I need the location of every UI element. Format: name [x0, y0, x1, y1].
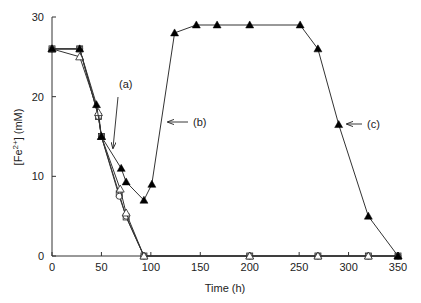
- x-tick-label: 50: [95, 261, 107, 273]
- series-line: [52, 49, 398, 256]
- series-line: [52, 25, 398, 256]
- filled-triangle-marker: [246, 21, 254, 28]
- annotations: (a)(b)(c): [113, 78, 380, 148]
- annotation-arrow: [113, 97, 118, 148]
- series-open-triangle: [48, 45, 402, 259]
- filled-triangle-marker: [117, 164, 125, 171]
- series-line: [52, 49, 398, 256]
- x-tick-label: 300: [339, 261, 357, 273]
- y-tick-label: 20: [32, 91, 44, 103]
- filled-triangle-marker: [296, 21, 304, 28]
- annotation-label: (a): [119, 78, 132, 90]
- filled-triangle-marker: [213, 21, 221, 28]
- y-tick-label: 30: [32, 11, 44, 23]
- series-line: [52, 49, 398, 256]
- filled-triangle-marker: [148, 180, 156, 187]
- filled-triangle-marker: [171, 29, 179, 36]
- annotation-c: (c): [347, 118, 380, 130]
- open-triangle-marker: [122, 209, 130, 216]
- series-filled-triangle: [48, 21, 402, 259]
- x-tick-label: 100: [142, 261, 160, 273]
- annotation-b: (b): [168, 116, 206, 128]
- y-tick-label: 0: [38, 250, 44, 262]
- filled-triangle-marker: [122, 178, 130, 185]
- filled-triangle-marker: [192, 21, 200, 28]
- y-axis-title: [Fe2+] (mM): [11, 109, 24, 166]
- annotation-label: (c): [367, 118, 380, 130]
- y-tick-label: 10: [32, 170, 44, 182]
- x-axis-title: Time (h): [205, 282, 246, 294]
- x-tick-label: 150: [191, 261, 209, 273]
- filled-triangle-marker: [92, 101, 100, 108]
- chart: 050100150200250300350 0102030 (a)(b)(c) …: [0, 0, 421, 303]
- x-tick-label: 250: [290, 261, 308, 273]
- annotation-label: (b): [193, 116, 206, 128]
- x-tick-label: 350: [389, 261, 407, 273]
- filled-triangle-marker: [335, 121, 343, 128]
- filled-triangle-marker: [364, 212, 372, 219]
- x-tick-label: 200: [241, 261, 259, 273]
- series-layer: [48, 21, 402, 259]
- annotation-a: (a): [113, 78, 132, 148]
- x-tick-label: 0: [49, 261, 55, 273]
- x-axis: 050100150200250300350: [49, 252, 407, 273]
